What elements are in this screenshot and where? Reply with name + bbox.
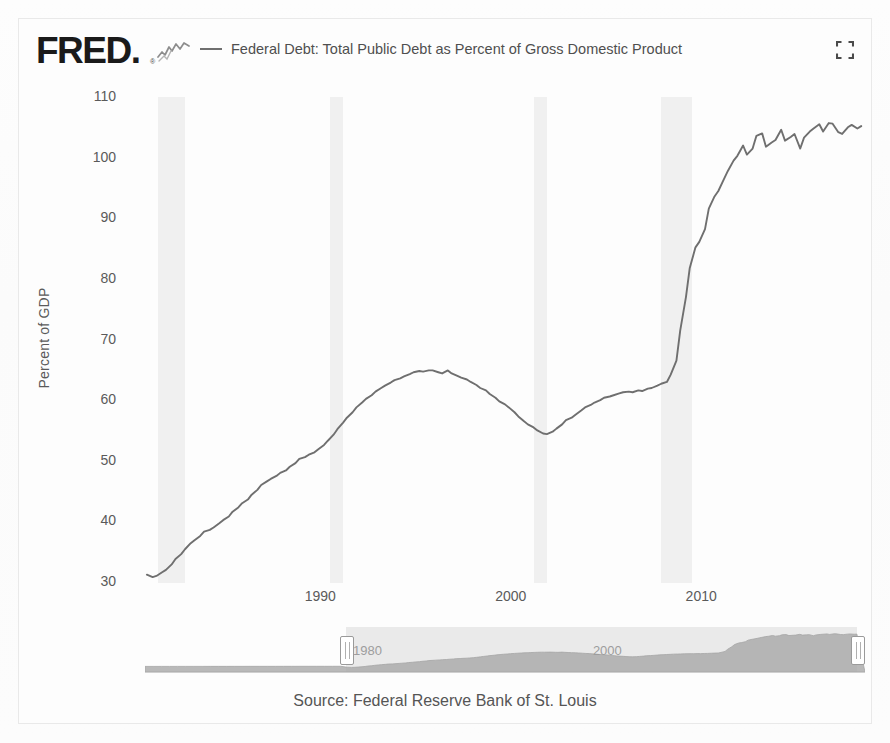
range-navigator[interactable]: 1980 2000: [145, 627, 865, 673]
navigator-label-mid: 2000: [593, 643, 622, 658]
source-attribution: Source: Federal Reserve Bank of St. Loui…: [0, 692, 890, 710]
navigator-handle-right[interactable]: [851, 636, 865, 665]
fred-chart-widget: FRED. ® Federal Debt: Total Public Debt …: [0, 0, 890, 743]
navigator-handle-left[interactable]: [340, 636, 354, 665]
navigator-label-start: 1980: [353, 643, 382, 658]
